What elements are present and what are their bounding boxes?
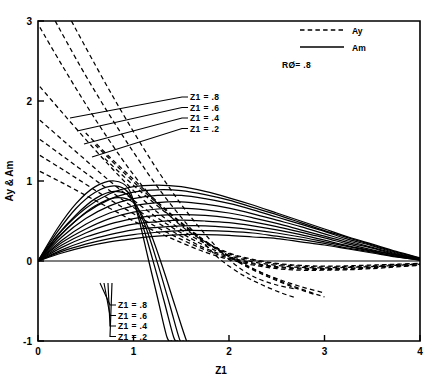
tick-marks [38,21,420,341]
x-tick-label: 3 [322,346,328,357]
plot-svg: 01234-10123 Z1 = .8Z1 = .6Z1 = .4Z1 = .2… [0,0,444,382]
y-axis-title: Ay & Am [4,160,15,201]
y-tick-label: -1 [23,336,32,347]
y-tick-label: 2 [26,96,32,107]
data-curve [55,21,296,298]
data-curve [38,198,189,343]
x-tick-label: 0 [35,346,41,357]
data-curve [71,21,295,289]
y-tick-label: 0 [26,256,32,267]
x-tick-label: 1 [131,346,137,357]
annotation-top-label: Z1 = .4 [190,113,220,123]
chart-legend: AyAmRØ= .8 [282,26,366,70]
annotation-bottom-label: Z1 = .6 [118,311,148,321]
tick-labels: 01234-10123 [23,16,423,358]
leader-line [77,108,188,132]
annotation-top-label: Z1 = .8 [190,92,220,102]
annotation-top-label: Z1 = .6 [190,103,220,113]
x-tick-label: 2 [226,346,232,357]
leader-line [104,283,116,316]
y-tick-label: 3 [26,16,32,27]
chart-container: 01234-10123 Z1 = .8Z1 = .6Z1 = .4Z1 = .2… [0,0,444,382]
series-annotations: Z1 = .8Z1 = .6Z1 = .4Z1 = .2Z1 = .8Z1 = … [118,92,220,342]
data-curve [40,87,420,267]
x-axis-title: Z1 [215,365,227,376]
data-curves [38,21,420,342]
annotation-bottom-label: Z1 = .8 [118,300,148,310]
legend-label-ay: Ay [352,26,363,36]
y-tick-label: 1 [26,176,32,187]
x-tick-label: 4 [417,346,423,357]
annotation-bottom-label: Z1 = .2 [118,332,148,342]
leader-line [110,283,116,337]
plot-frame [38,21,420,341]
axes-frame [38,21,420,341]
annotation-bottom-label: Z1 = .4 [118,321,148,331]
data-curve [38,208,420,261]
legend-parameter-note: RØ= .8 [282,60,311,70]
legend-label-am: Am [352,43,366,53]
annotation-top-label: Z1 = .2 [190,124,220,134]
